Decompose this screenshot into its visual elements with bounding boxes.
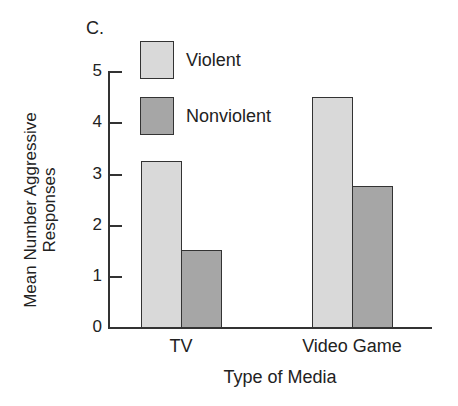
bar-tv-nonviolent (181, 250, 222, 328)
y-axis-label-line2: Responses (40, 112, 59, 308)
y-tick-label: 1 (82, 266, 102, 286)
y-tick-label: 3 (82, 164, 102, 184)
bar-videogame-violent (312, 97, 353, 328)
y-tick-label: 2 (82, 215, 102, 235)
x-axis-label: Type of Media (180, 367, 380, 388)
legend-label-nonviolent: Nonviolent (186, 106, 271, 127)
y-tick (108, 276, 122, 278)
bar-videogame-nonviolent (352, 186, 393, 328)
y-axis-label-line1: Mean Number Aggressive (21, 112, 40, 308)
legend-swatch-violent (140, 41, 174, 79)
y-tick (108, 174, 122, 176)
panel-label: C. (86, 18, 104, 39)
y-tick-label: 5 (82, 61, 102, 81)
y-axis-line (108, 71, 110, 328)
y-tick-label: 4 (82, 112, 102, 132)
legend-label-violent: Violent (186, 50, 241, 71)
y-tick (108, 225, 122, 227)
x-category-label-video-game: Video Game (292, 336, 412, 357)
y-tick (108, 122, 122, 124)
y-axis-label: Mean Number Aggressive Responses (8, 80, 72, 340)
x-category-label-tv: TV (141, 336, 221, 357)
bar-tv-violent (141, 161, 182, 328)
legend-swatch-nonviolent (140, 97, 174, 135)
y-tick-label: 0 (82, 317, 102, 337)
y-tick (108, 71, 122, 73)
